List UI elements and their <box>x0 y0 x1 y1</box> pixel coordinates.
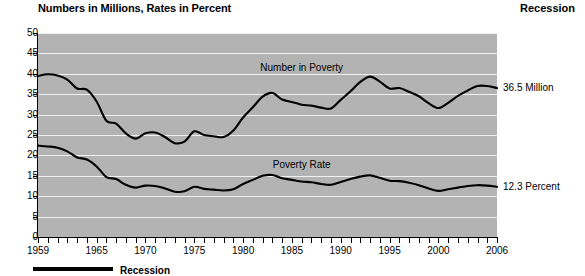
x-axis-tick-label-1959: 1959 <box>27 245 49 256</box>
x-axis-tick-mark-1980 <box>243 238 244 243</box>
x-axis-tick-mark-1976 <box>204 238 205 243</box>
x-axis-tick-mark-1962 <box>67 238 68 243</box>
x-axis-tick-mark-1994 <box>380 238 381 243</box>
x-axis-tick-mark-1982 <box>263 238 264 243</box>
x-axis-tick-mark-1970 <box>145 238 146 243</box>
x-axis-tick-mark-1959 <box>38 238 39 243</box>
x-axis-tick-mark-2003 <box>468 238 469 243</box>
x-axis-tick-mark-1997 <box>409 238 410 243</box>
x-axis-tick-mark-1971 <box>155 238 156 243</box>
x-axis-tick-label-1990: 1990 <box>330 245 352 256</box>
x-axis-tick-mark-1977 <box>214 238 215 243</box>
x-axis-tick-mark-2000 <box>438 238 439 243</box>
x-axis-tick-mark-1985 <box>292 238 293 243</box>
x-axis-tick-mark-1968 <box>126 238 127 243</box>
x-axis-tick-mark-1996 <box>399 238 400 243</box>
x-axis-tick-mark-1964 <box>87 238 88 243</box>
x-axis-tick-label-2000: 2000 <box>427 245 449 256</box>
x-axis-tick-mark-1993 <box>370 238 371 243</box>
x-axis-tick-mark-1991 <box>351 238 352 243</box>
x-axis: 1959196519701975198019851990199520002006 <box>0 0 585 276</box>
x-axis-tick-mark-1966 <box>106 238 107 243</box>
chart-caption-row: Recession <box>0 266 585 276</box>
x-axis-tick-label-1980: 1980 <box>232 245 254 256</box>
x-axis-tick-mark-1990 <box>341 238 342 243</box>
x-axis-tick-mark-2001 <box>448 238 449 243</box>
x-axis-tick-mark-1999 <box>429 238 430 243</box>
x-axis-tick-mark-1972 <box>165 238 166 243</box>
x-axis-tick-mark-2005 <box>487 238 488 243</box>
series-label-poverty-rate: Poverty Rate <box>273 159 331 170</box>
x-axis-tick-mark-1995 <box>390 238 391 243</box>
x-axis-tick-mark-2002 <box>458 238 459 243</box>
x-axis-tick-mark-1975 <box>194 238 195 243</box>
x-axis-tick-mark-1967 <box>116 238 117 243</box>
x-axis-tick-mark-1974 <box>185 238 186 243</box>
x-axis-tick-mark-1981 <box>253 238 254 243</box>
end-label-number-in-poverty: 36.5 Million <box>503 82 554 93</box>
x-axis-tick-mark-1978 <box>224 238 225 243</box>
x-axis-tick-mark-1961 <box>58 238 59 243</box>
x-axis-tick-mark-1965 <box>97 238 98 243</box>
x-axis-tick-label-1965: 1965 <box>85 245 107 256</box>
caption-text: Recession <box>120 266 170 276</box>
x-axis-tick-mark-1983 <box>272 238 273 243</box>
x-axis-tick-mark-1988 <box>321 238 322 243</box>
end-label-poverty-rate: 12.3 Percent <box>503 181 560 192</box>
x-axis-tick-mark-1979 <box>233 238 234 243</box>
x-axis-tick-mark-1987 <box>311 238 312 243</box>
x-axis-tick-label-1995: 1995 <box>378 245 400 256</box>
x-axis-tick-label-1970: 1970 <box>134 245 156 256</box>
x-axis-tick-mark-1989 <box>331 238 332 243</box>
x-axis-tick-mark-1969 <box>136 238 137 243</box>
x-axis-tick-mark-1984 <box>282 238 283 243</box>
x-axis-tick-mark-1973 <box>175 238 176 243</box>
caption-legend-swatch <box>33 267 113 271</box>
x-axis-tick-mark-1992 <box>360 238 361 243</box>
x-axis-tick-label-1985: 1985 <box>281 245 303 256</box>
poverty-chart: Numbers in Millions, Rates in Percent Re… <box>0 0 585 276</box>
x-axis-tick-label-1975: 1975 <box>183 245 205 256</box>
x-axis-tick-mark-1998 <box>419 238 420 243</box>
series-label-number-in-poverty: Number in Poverty <box>260 62 343 73</box>
x-axis-tick-label-2006: 2006 <box>486 245 508 256</box>
x-axis-tick-mark-1963 <box>77 238 78 243</box>
x-axis-tick-mark-2006 <box>497 238 498 243</box>
x-axis-tick-mark-2004 <box>478 238 479 243</box>
x-axis-tick-mark-1986 <box>302 238 303 243</box>
x-axis-tick-mark-1960 <box>48 238 49 243</box>
